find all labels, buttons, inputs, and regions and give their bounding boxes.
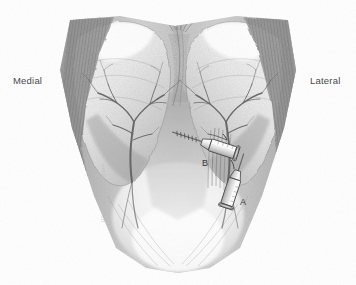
medical-illustration-figure: Medial Lateral B A illustration signatur… (0, 0, 356, 285)
orientation-label-medial: Medial (13, 76, 42, 86)
anatomy-illustration (0, 0, 356, 285)
artist-signature: illustration signature (100, 164, 106, 222)
callout-label-a: A (240, 198, 246, 207)
orientation-label-lateral: Lateral (310, 76, 340, 86)
callout-label-b: B (202, 159, 208, 168)
